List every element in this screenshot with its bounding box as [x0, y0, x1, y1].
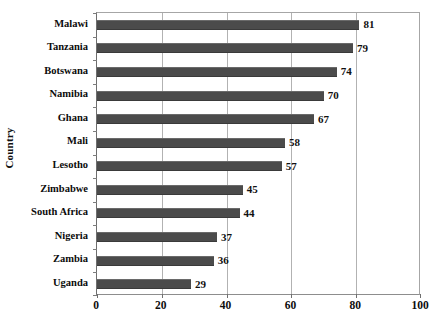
- category-axis: MalawiTanzaniaBotswanaNamibiaGhanaMaliLe…: [18, 12, 92, 295]
- bar-row[interactable]: 58: [97, 131, 419, 155]
- bar[interactable]: [97, 91, 324, 101]
- bar-value-label: 36: [218, 255, 229, 266]
- bar[interactable]: [97, 185, 243, 195]
- category-row: Namibia: [18, 83, 92, 107]
- plot-area: 817974706758574544373629: [96, 12, 420, 295]
- bar-row[interactable]: 81: [97, 13, 419, 37]
- category-label: Ghana: [58, 113, 88, 124]
- bar-value-label: 29: [195, 279, 206, 290]
- category-label: Malawi: [54, 19, 88, 30]
- bar-row[interactable]: 29: [97, 272, 419, 296]
- bar-row[interactable]: 45: [97, 178, 419, 202]
- category-row: Mali: [18, 130, 92, 154]
- x-axis-tick-label: 100: [411, 300, 428, 312]
- category-label: Nigeria: [55, 231, 88, 242]
- category-row: South Africa: [18, 201, 92, 225]
- bar-row[interactable]: 44: [97, 202, 419, 226]
- x-axis-tick-label: 20: [155, 300, 167, 312]
- category-row: Tanzania: [18, 36, 92, 60]
- bar[interactable]: [97, 161, 282, 171]
- bar-row[interactable]: 79: [97, 37, 419, 61]
- category-row: Zambia: [18, 248, 92, 272]
- bar[interactable]: [97, 208, 240, 218]
- category-label: South Africa: [31, 207, 88, 218]
- category-label: Uganda: [53, 278, 88, 289]
- bar-row[interactable]: 67: [97, 107, 419, 131]
- y-axis-title-label: Country: [3, 127, 15, 168]
- bar-value-label: 44: [244, 208, 255, 219]
- bar[interactable]: [97, 256, 214, 266]
- bar-row[interactable]: 37: [97, 225, 419, 249]
- category-row: Botswana: [18, 59, 92, 83]
- bar-value-label: 81: [363, 19, 374, 30]
- x-axis-labels: 020406080100: [96, 300, 420, 320]
- bar[interactable]: [97, 279, 191, 289]
- category-row: Nigeria: [18, 224, 92, 248]
- category-label: Zimbabwe: [40, 184, 88, 195]
- bar[interactable]: [97, 232, 217, 242]
- category-label: Tanzania: [47, 42, 88, 53]
- bar-value-label: 74: [341, 66, 352, 77]
- bar-row[interactable]: 74: [97, 60, 419, 84]
- category-label: Lesotho: [52, 160, 88, 171]
- bar-value-label: 79: [357, 43, 368, 54]
- bar-row[interactable]: 70: [97, 84, 419, 108]
- bar[interactable]: [97, 20, 359, 30]
- x-axis-tick-label: 60: [285, 300, 297, 312]
- category-row: Malawi: [18, 12, 92, 36]
- bar-value-label: 45: [247, 184, 258, 195]
- bar[interactable]: [97, 67, 337, 77]
- category-row: Uganda: [18, 271, 92, 295]
- category-label: Namibia: [49, 89, 88, 100]
- bar-row[interactable]: 36: [97, 249, 419, 273]
- bar-value-label: 70: [328, 90, 339, 101]
- bar-row[interactable]: 57: [97, 155, 419, 179]
- category-row: Zimbabwe: [18, 177, 92, 201]
- bar-value-label: 67: [318, 114, 329, 125]
- x-axis-tick-label: 40: [220, 300, 232, 312]
- bars-layer: 817974706758574544373629: [97, 13, 419, 294]
- category-label: Mali: [67, 136, 88, 147]
- bar-value-label: 57: [286, 161, 297, 172]
- bar[interactable]: [97, 138, 285, 148]
- x-axis-tick-label: 80: [349, 300, 361, 312]
- bar[interactable]: [97, 43, 353, 53]
- x-axis-tick-label: 0: [93, 300, 99, 312]
- bar-value-label: 58: [289, 137, 300, 148]
- x-axis-tick: [420, 294, 421, 298]
- bar-value-label: 37: [221, 232, 232, 243]
- bar[interactable]: [97, 114, 314, 124]
- category-row: Ghana: [18, 106, 92, 130]
- category-label: Zambia: [53, 254, 88, 265]
- category-label: Botswana: [44, 66, 88, 77]
- category-row: Lesotho: [18, 153, 92, 177]
- y-axis-title: Country: [0, 0, 18, 296]
- bar-chart: Country MalawiTanzaniaBotswanaNamibiaGha…: [0, 0, 437, 328]
